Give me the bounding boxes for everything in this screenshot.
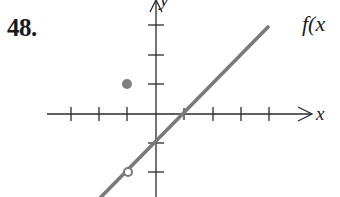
- y-axis-label: y: [158, 0, 169, 10]
- filled-point: [122, 79, 132, 89]
- x-axis-label: x: [315, 103, 325, 124]
- y-axis: [148, 0, 164, 197]
- open-circle-point: [124, 168, 132, 176]
- function-graph: x y: [0, 0, 340, 197]
